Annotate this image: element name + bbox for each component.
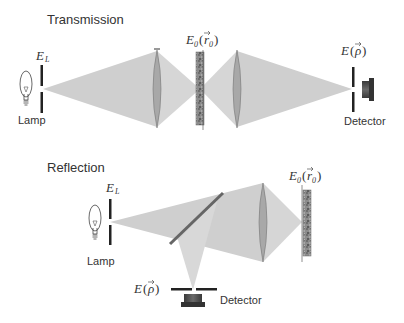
detector-aperture [171,288,217,291]
svg-text:): ) [155,281,159,296]
detector-icon [181,294,205,307]
beam-lens-to-detector [237,51,352,127]
svg-text:E: E [133,281,142,296]
transmission-lamp-label: Lamp [18,114,46,126]
reflection-setup: Reflection Lamp E L [47,160,321,307]
detector-aperture [352,67,355,112]
svg-text:(: ( [350,43,354,58]
sample-object [303,190,311,256]
lamp-icon [89,205,101,239]
source-aperture [41,65,44,113]
lamp-icon [20,71,32,105]
svg-text:(: ( [302,168,306,183]
svg-text:0: 0 [194,40,198,49]
transmission-setup: Transmission Lamp E L [18,12,386,130]
svg-text:E: E [288,168,297,183]
detector-icon [362,78,374,101]
svg-text:E: E [185,32,194,47]
svg-text:(: ( [143,281,147,296]
svg-text:): ) [214,32,218,47]
beam-lens-to-sample [157,51,200,127]
sample-field-label: E 0 ( r 0 ) [185,31,218,49]
beam-source-to-lens [43,51,157,127]
sample-field-label: E 0 ( r 0 ) [288,167,321,185]
svg-text:0: 0 [312,176,316,185]
svg-text:0: 0 [297,176,301,185]
reflection-title: Reflection [47,160,105,175]
beam-sample-to-lens [200,51,237,127]
svg-text:(: ( [199,32,203,47]
svg-text:E: E [105,180,114,195]
svg-text:): ) [362,43,366,58]
svg-text:): ) [317,168,321,183]
transmission-detector-label: Detector [344,115,386,127]
svg-text:L: L [44,55,50,64]
beam-lens-to-sample [263,183,302,262]
svg-text:E: E [340,43,349,58]
svg-text:E: E [35,48,44,63]
lens-1-cap-top [154,48,160,50]
reflection-lamp-label: Lamp [87,255,115,267]
svg-text:L: L [114,187,120,196]
transmission-title: Transmission [47,12,124,27]
detector-field-label: E ( ρ ) [340,42,366,58]
reflection-detector-label: Detector [220,294,262,306]
svg-text:0: 0 [209,40,213,49]
optics-diagram: Transmission Lamp E L [0,0,404,323]
source-field-label: E L [35,48,50,64]
detector-field-label: E ( ρ ) [133,280,159,296]
source-field-label: E L [105,180,120,196]
